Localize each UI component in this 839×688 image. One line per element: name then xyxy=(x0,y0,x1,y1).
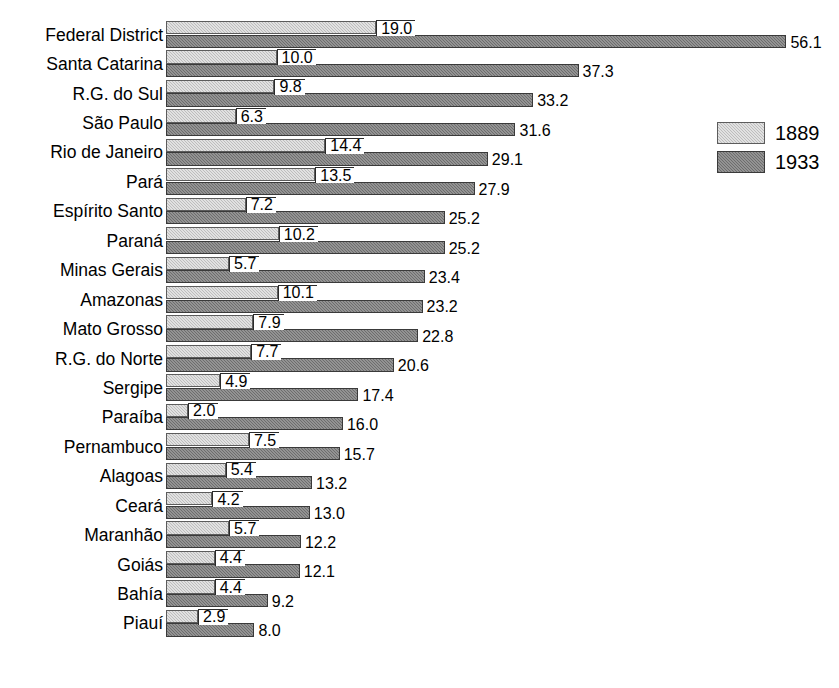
chart-row: Maranhão5.712.2 xyxy=(0,520,839,549)
bar-1889[interactable] xyxy=(166,198,246,211)
category-label: Rio de Janeiro xyxy=(0,143,163,162)
category-label: Paraíba xyxy=(0,408,163,427)
bar-1933[interactable] xyxy=(166,564,300,577)
bar-1933[interactable] xyxy=(166,358,394,371)
value-label-1889: 10.1 xyxy=(278,285,317,301)
value-label-1889: 2.0 xyxy=(188,403,218,419)
bar-1933[interactable] xyxy=(166,417,343,430)
bar-1889[interactable] xyxy=(166,433,249,446)
value-label-1889: 5.7 xyxy=(229,520,259,536)
value-label-1889: 7.2 xyxy=(246,197,276,213)
value-label-1933: 8.0 xyxy=(254,624,280,639)
chart-legend: 1889 1933 xyxy=(717,121,837,179)
category-label: Espírito Santo xyxy=(0,202,163,221)
bar-1889[interactable] xyxy=(166,109,236,122)
bar-1933[interactable] xyxy=(166,623,254,636)
value-label-1933: 25.2 xyxy=(445,212,480,227)
bar-1933[interactable] xyxy=(166,535,301,548)
bar-1889[interactable] xyxy=(166,21,376,34)
bar-1889[interactable] xyxy=(166,404,188,417)
bar-1889[interactable] xyxy=(166,168,315,181)
chart-row: Pará13.527.9 xyxy=(0,167,839,196)
value-label-1933: 27.9 xyxy=(475,182,510,197)
value-label-1933: 13.0 xyxy=(310,506,345,521)
value-label-1933: 16.0 xyxy=(343,418,378,433)
value-label-1889: 19.0 xyxy=(376,20,415,36)
bar-1933[interactable] xyxy=(166,211,445,224)
chart-row: Amazonas10.123.2 xyxy=(0,285,839,314)
chart-row: Minas Gerais5.723.4 xyxy=(0,256,839,285)
category-label: Goiás xyxy=(0,555,163,574)
bar-1889[interactable] xyxy=(166,463,226,476)
bar-1933[interactable] xyxy=(166,123,515,136)
category-label: Bahía xyxy=(0,585,163,604)
value-label-1889: 14.4 xyxy=(325,138,364,154)
bar-1889[interactable] xyxy=(166,610,198,623)
value-label-1889: 4.2 xyxy=(212,491,242,507)
bar-1889[interactable] xyxy=(166,257,229,270)
bar-1933[interactable] xyxy=(166,35,786,48)
bar-1933[interactable] xyxy=(166,594,268,607)
value-label-1933: 20.6 xyxy=(394,359,429,374)
bar-1889[interactable] xyxy=(166,345,251,358)
horizontal-bar-chart: Federal District19.056.1Santa Catarina10… xyxy=(0,0,839,688)
value-label-1933: 33.2 xyxy=(533,94,568,109)
value-label-1933: 31.6 xyxy=(515,123,550,138)
chart-row: Sergipe4.917.4 xyxy=(0,373,839,402)
bar-1889[interactable] xyxy=(166,286,278,299)
value-label-1889: 7.7 xyxy=(251,344,281,360)
value-label-1889: 6.3 xyxy=(236,108,266,124)
bar-1933[interactable] xyxy=(166,476,312,489)
category-label: Santa Catarina xyxy=(0,55,163,74)
category-label: Pernambuco xyxy=(0,437,163,456)
category-label: Piauí xyxy=(0,614,163,633)
bar-1933[interactable] xyxy=(166,64,579,77)
bar-1889[interactable] xyxy=(166,521,229,534)
chart-row: Federal District19.056.1 xyxy=(0,20,839,49)
chart-row: São Paulo6.331.6 xyxy=(0,108,839,137)
value-label-1933: 29.1 xyxy=(488,153,523,168)
chart-row: Piauí2.98.0 xyxy=(0,609,839,638)
category-label: R.G. do Sul xyxy=(0,84,163,103)
bar-1889[interactable] xyxy=(166,80,274,93)
value-label-1889: 4.9 xyxy=(220,373,250,389)
value-label-1933: 15.7 xyxy=(340,447,375,462)
chart-row: Pernambuco7.515.7 xyxy=(0,432,839,461)
chart-row: Mato Grosso7.922.8 xyxy=(0,314,839,343)
bar-1889[interactable] xyxy=(166,139,325,152)
legend-label-1933: 1933 xyxy=(775,152,820,172)
value-label-1889: 5.4 xyxy=(226,462,256,478)
bar-1933[interactable] xyxy=(166,241,445,254)
bar-1933[interactable] xyxy=(166,182,475,195)
bar-1933[interactable] xyxy=(166,300,423,313)
value-label-1933: 12.2 xyxy=(301,535,336,550)
category-label: R.G. do Norte xyxy=(0,349,163,368)
bar-1889[interactable] xyxy=(166,315,253,328)
bar-1889[interactable] xyxy=(166,580,215,593)
bar-1889[interactable] xyxy=(166,551,215,564)
bar-1933[interactable] xyxy=(166,93,533,106)
bar-1889[interactable] xyxy=(166,374,220,387)
chart-row: Alagoas5.413.2 xyxy=(0,462,839,491)
bar-1933[interactable] xyxy=(166,388,358,401)
value-label-1933: 23.4 xyxy=(425,271,460,286)
bar-1933[interactable] xyxy=(166,447,340,460)
bar-1933[interactable] xyxy=(166,152,488,165)
bar-1889[interactable] xyxy=(166,50,277,63)
bar-1933[interactable] xyxy=(166,270,425,283)
chart-row: Bahía4.49.2 xyxy=(0,579,839,608)
legend-item-1933[interactable]: 1933 xyxy=(717,150,837,173)
value-label-1933: 56.1 xyxy=(786,35,821,50)
value-label-1889: 10.0 xyxy=(277,49,316,65)
chart-row: Paraná10.225.2 xyxy=(0,226,839,255)
bar-1933[interactable] xyxy=(166,329,418,342)
category-label: Mato Grosso xyxy=(0,320,163,339)
legend-item-1889[interactable]: 1889 xyxy=(717,121,837,144)
bar-1933[interactable] xyxy=(166,506,310,519)
bar-1889[interactable] xyxy=(166,492,212,505)
bar-1889[interactable] xyxy=(166,227,279,240)
value-label-1889: 13.5 xyxy=(315,167,354,183)
value-label-1889: 9.8 xyxy=(274,79,304,95)
value-label-1889: 4.4 xyxy=(215,579,245,595)
value-label-1933: 12.1 xyxy=(300,565,335,580)
